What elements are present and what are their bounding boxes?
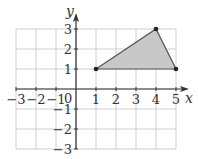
x-tick-label: 2	[112, 92, 120, 107]
x-tick-label: 5	[172, 92, 180, 107]
coordinate-plane: −3−2−112345 321−1−2−3 0 x y	[0, 0, 198, 159]
x-tick-label: 3	[132, 92, 140, 107]
x-tick-label: 4	[152, 92, 160, 107]
vertex-point	[174, 67, 179, 72]
x-axis-label: x	[185, 90, 193, 106]
origin-label: 0	[64, 91, 72, 106]
x-tick-label: 1	[92, 92, 100, 107]
x-tick-label: −2	[26, 92, 45, 107]
vertex-point	[94, 67, 99, 72]
y-tick-label: 2	[64, 42, 72, 57]
y-tick-label: 1	[64, 62, 72, 77]
y-tick-label: −3	[53, 142, 72, 157]
vertex-point	[154, 27, 159, 32]
y-axis-label: y	[65, 3, 75, 19]
x-tick-label: −3	[6, 92, 25, 107]
x-tick-labels: −3−2−112345	[6, 92, 180, 107]
y-tick-label: −2	[53, 122, 72, 137]
y-tick-label: 3	[64, 22, 72, 37]
